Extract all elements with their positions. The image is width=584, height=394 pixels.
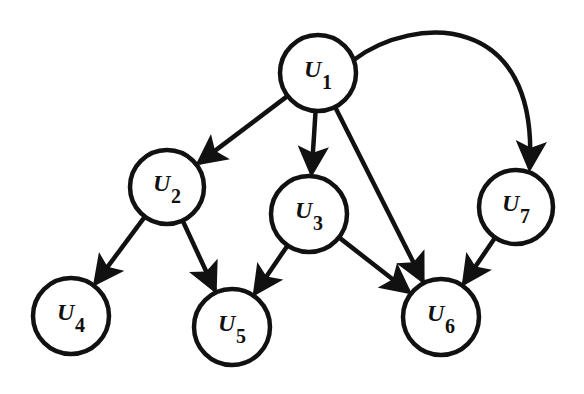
node-subscript: 5 — [236, 325, 246, 347]
node-subscript: 6 — [445, 315, 455, 337]
node-subscript: 2 — [171, 185, 181, 207]
node-u6: U6 — [403, 279, 479, 355]
node-u4: U4 — [33, 278, 109, 354]
edge-u1-to-u3 — [312, 111, 316, 173]
node-label: U — [502, 190, 521, 216]
node-u7: U7 — [479, 170, 553, 244]
node-label: U — [153, 170, 172, 196]
node-label: U — [57, 299, 76, 325]
node-label: U — [427, 300, 446, 326]
node-subscript: 1 — [322, 71, 332, 93]
node-u1: U1 — [280, 35, 356, 111]
node-subscript: 3 — [313, 212, 323, 234]
node-u2: U2 — [130, 150, 204, 224]
edge-u3-to-u5 — [255, 245, 288, 293]
node-label: U — [218, 310, 237, 336]
node-subscript: 4 — [75, 314, 85, 336]
node-subscript: 7 — [520, 205, 530, 227]
edge-u2-to-u5 — [183, 221, 215, 290]
directed-graph: U1U2U3U4U5U6U7 — [0, 0, 584, 394]
node-u3: U3 — [271, 176, 347, 252]
edge-u1-to-u7 — [354, 33, 531, 168]
edge-u2-to-u4 — [95, 217, 144, 283]
nodes: U1U2U3U4U5U6U7 — [33, 35, 553, 365]
node-u5: U5 — [194, 289, 270, 365]
edge-u1-to-u2 — [199, 96, 288, 163]
edge-u7-to-u6 — [464, 238, 495, 284]
edge-u1-to-u6 — [335, 107, 422, 280]
node-label: U — [304, 56, 323, 82]
node-label: U — [295, 197, 314, 223]
edge-u3-to-u6 — [339, 237, 409, 291]
